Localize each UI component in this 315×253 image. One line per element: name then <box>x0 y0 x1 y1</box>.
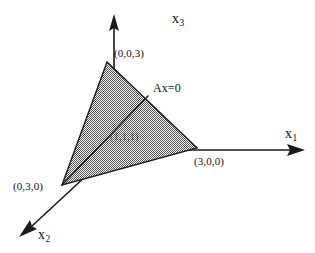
axis-label-x2: x2 <box>38 228 50 242</box>
vertex-label-300: (3,0,0) <box>194 156 224 167</box>
simplex-diagram: x3 x1 x2 (0,0,3) (3,0,0) (0,3,0) Ax=0 (1… <box>0 0 315 253</box>
diagram-canvas <box>0 0 315 253</box>
axis-label-x3-subscript: 3 <box>179 18 184 28</box>
vertex-label-003: (0,0,3) <box>114 48 144 59</box>
axis-x2-arrowhead <box>19 220 37 237</box>
axis-label-x1-subscript: 1 <box>292 133 297 143</box>
axis-label-x1: x1 <box>285 127 297 141</box>
interior-point-label-111: (1,1,1) <box>110 132 139 143</box>
constraint-label-ax0: Ax=0 <box>153 82 181 94</box>
vertex-label-030: (0,3,0) <box>13 181 43 192</box>
axis-label-x3: x3 <box>172 12 184 26</box>
axis-label-x2-subscript: 2 <box>45 234 50 244</box>
